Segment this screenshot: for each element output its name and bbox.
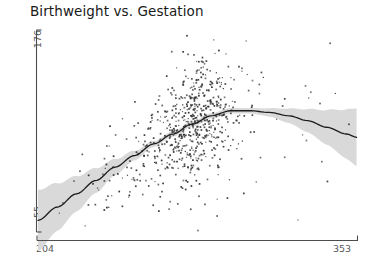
- scatter-points: [59, 35, 350, 231]
- chart-figure: Birthweight vs. Gestation 176 55 204 353: [0, 0, 370, 262]
- plot-area: [0, 0, 370, 262]
